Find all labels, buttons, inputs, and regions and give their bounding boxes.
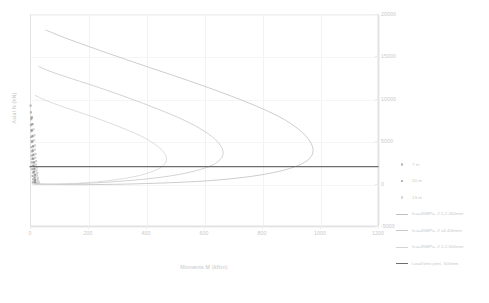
x-tick-mark: [88, 226, 89, 229]
y-tick-mark: [375, 226, 378, 227]
y-tick-label: 0: [381, 181, 384, 187]
x-tick-label: 1000: [314, 230, 326, 236]
x-tick-mark: [30, 226, 31, 229]
legend-item[interactable]: fcu=45MPa, 2 s6,400mm: [396, 222, 488, 239]
gridline-horizontal: [31, 15, 377, 16]
legend-swatch-line: [396, 243, 408, 251]
x-tick-label: 800: [258, 230, 267, 236]
legend-label: 13 m: [412, 195, 422, 200]
x-tick-label: 600: [200, 230, 209, 236]
legend-line-icon: [396, 214, 408, 215]
legend-item[interactable]: 7 m: [396, 156, 488, 173]
legend-marker-icon: [401, 196, 403, 198]
legend-line-icon: [396, 247, 408, 248]
chart-root: 020040060080010001200 200001500010000500…: [0, 0, 489, 303]
legend-marker-icon: [401, 180, 403, 182]
x-tick-label: 200: [84, 230, 93, 236]
legend-item[interactable]: fcu=35MPa, 2.1,2.500mm: [396, 239, 488, 256]
plot-area: [30, 14, 378, 226]
legend-label: fcu=35MPa, 2.1,2.500mm: [412, 244, 464, 249]
gridline-horizontal: [31, 100, 377, 101]
legend-swatch-line: [396, 210, 408, 218]
y-tick-mark: [375, 99, 378, 100]
y-tick-label: -5000: [381, 223, 395, 229]
legend-item[interactable]: Load limit joint, 500mm: [396, 255, 488, 272]
legend-swatch-marker: [396, 177, 408, 185]
y-tick-mark: [375, 184, 378, 185]
gridline-vertical: [205, 15, 206, 225]
legend-label: fcu=45MPa, 2 s6,400mm: [412, 228, 462, 233]
legend-line-icon: [396, 263, 408, 265]
chart-legend: 7 m10 m13 mfcu=45MPa, 2.1,2.450mmfcu=45M…: [396, 156, 488, 272]
legend-label: 7 m: [412, 162, 419, 167]
x-tick-mark: [262, 226, 263, 229]
y-tick-label: 10000: [381, 96, 396, 102]
legend-swatch-line: [396, 259, 408, 267]
gridline-horizontal: [31, 142, 377, 143]
legend-item[interactable]: 13 m: [396, 189, 488, 206]
x-tick-label: 400: [142, 230, 151, 236]
legend-label: Load limit joint, 500mm: [412, 261, 458, 266]
legend-swatch-marker: [396, 193, 408, 201]
gridline-vertical: [379, 15, 380, 225]
y-tick-label: 5000: [381, 138, 393, 144]
gridline-horizontal: [31, 185, 377, 186]
legend-swatch-marker: [396, 160, 408, 168]
legend-marker-icon: [401, 163, 403, 165]
x-tick-label: 1200: [372, 230, 384, 236]
x-axis-title: Moments M (kNm): [30, 264, 378, 270]
y-axis-title: Axial N (kN): [11, 78, 17, 138]
x-tick-mark: [320, 226, 321, 229]
y-tick-mark: [375, 14, 378, 15]
y-axis-right-line: [378, 14, 379, 226]
legend-label: fcu=45MPa, 2.1,2.450mm: [412, 211, 464, 216]
legend-item[interactable]: fcu=45MPa, 2.1,2.450mm: [396, 206, 488, 223]
gridline-vertical: [147, 15, 148, 225]
y-tick-mark: [375, 56, 378, 57]
x-tick-mark: [204, 226, 205, 229]
legend-line-icon: [396, 230, 408, 231]
gridline-vertical: [89, 15, 90, 225]
gridline-vertical: [263, 15, 264, 225]
legend-swatch-line: [396, 226, 408, 234]
legend-label: 10 m: [412, 178, 422, 183]
y-tick-label: 20000: [381, 11, 396, 17]
gridline-vertical: [321, 15, 322, 225]
x-tick-label: 0: [29, 230, 32, 236]
x-tick-mark: [378, 226, 379, 229]
legend-item[interactable]: 10 m: [396, 173, 488, 190]
y-tick-mark: [375, 141, 378, 142]
y-tick-label: 15000: [381, 53, 396, 59]
y-axis-line: [30, 14, 31, 226]
x-tick-mark: [146, 226, 147, 229]
gridline-horizontal: [31, 57, 377, 58]
